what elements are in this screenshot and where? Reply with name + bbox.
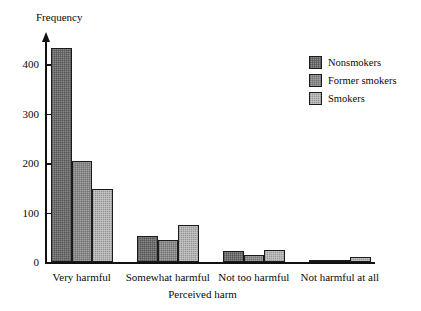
legend-label: Former smokers [328, 75, 397, 86]
bar [244, 255, 265, 262]
bar [264, 250, 285, 262]
bar [309, 260, 330, 262]
bar [350, 257, 371, 262]
legend-swatch [309, 56, 322, 69]
bar [51, 48, 72, 262]
legend-label: Nonsmokers [328, 57, 381, 68]
bar [158, 240, 179, 262]
y-axis-tick-label: 200 [23, 157, 40, 169]
legend-swatch [309, 74, 322, 87]
legend-item: Former smokers [309, 72, 397, 89]
legend: NonsmokersFormer smokersSmokers [309, 54, 397, 108]
legend-swatch [309, 92, 322, 105]
x-axis-title: Perceived harm [0, 288, 421, 300]
bar [72, 161, 93, 262]
y-axis-tick-label: 400 [23, 58, 40, 70]
y-axis-title: Frequency [36, 11, 82, 23]
x-axis-category-label: Not harmful at all [300, 271, 379, 283]
bar-chart: Frequency 0100200300400 Very harmfulSome… [0, 0, 421, 311]
y-axis-tick-label: 0 [34, 256, 40, 268]
x-axis-title-text: Perceived harm [168, 288, 237, 300]
bar [92, 189, 113, 262]
legend-label: Smokers [328, 93, 365, 104]
bar [137, 236, 158, 262]
x-axis-category-label: Not too harmful [218, 271, 289, 283]
legend-item: Nonsmokers [309, 54, 397, 71]
y-axis-tick-label: 100 [23, 207, 40, 219]
y-axis-tick-label: 300 [23, 108, 40, 120]
bar [178, 225, 199, 262]
bar [330, 260, 351, 262]
x-axis-category-label: Somewhat harmful [126, 271, 210, 283]
bar [223, 251, 244, 262]
legend-item: Smokers [309, 90, 397, 107]
x-axis-category-label: Very harmful [53, 271, 111, 283]
